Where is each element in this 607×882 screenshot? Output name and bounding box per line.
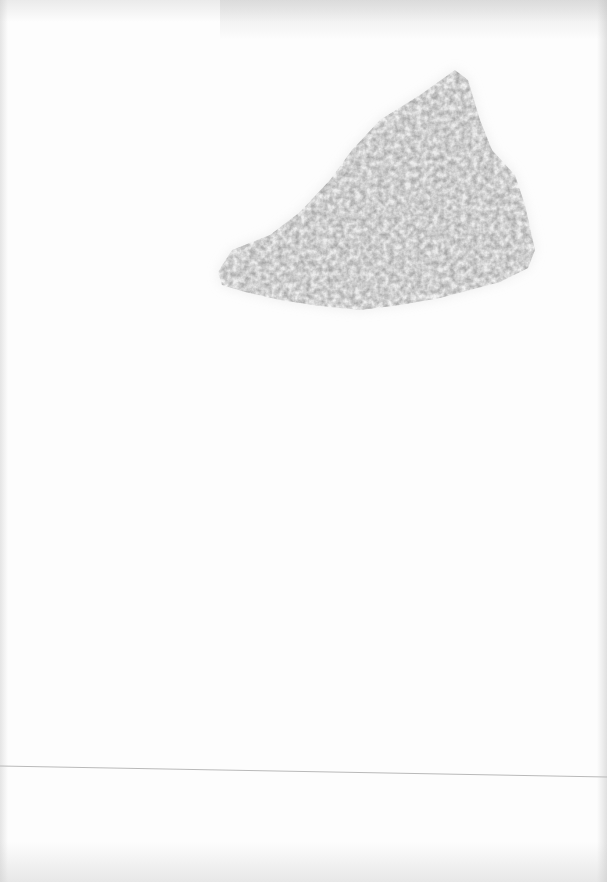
rule-line [0,766,607,777]
horizontal-rule-line [0,0,607,882]
scanned-page [0,0,607,882]
